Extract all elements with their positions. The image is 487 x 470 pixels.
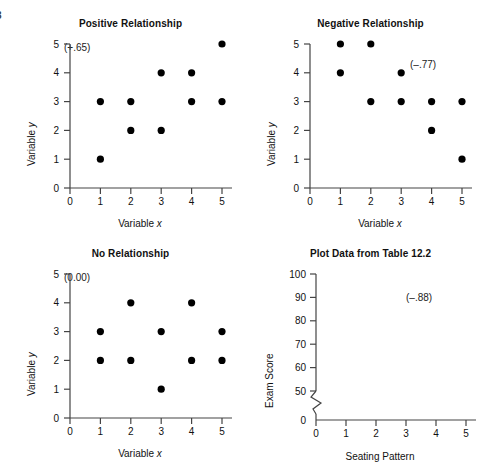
data-point [97, 357, 104, 364]
svg-text:0: 0 [313, 428, 319, 439]
svg-text:4: 4 [433, 428, 439, 439]
data-point [158, 127, 165, 134]
svg-text:0: 0 [307, 196, 313, 206]
plot-area-positive: 0 1 2 3 4 5 0 1 2 3 4 5 [40, 36, 240, 206]
svg-text:4: 4 [53, 67, 59, 78]
data-point [97, 328, 104, 335]
panel-no-relationship: No Relationship Variable y (0.00) 0 1 2 … [18, 248, 243, 463]
y-axis-label-positive: Variable y [26, 122, 37, 166]
panel-title-positive: Positive Relationship [18, 18, 243, 29]
x-axis-ticks [310, 188, 462, 194]
x-axis-ticklabels: 0 1 2 3 4 5 [313, 428, 469, 439]
data-point [398, 98, 405, 105]
svg-text:1: 1 [53, 154, 59, 165]
y-axis-ticks [64, 274, 70, 418]
svg-text:0: 0 [300, 415, 306, 426]
data-point [97, 156, 104, 163]
panel-negative-relationship: Negative Relationship Variable y (–.77) … [258, 18, 483, 233]
svg-text:1: 1 [98, 196, 104, 206]
scatter-svg-table: 100 90 80 70 60 50 0 0 1 2 3 [280, 266, 480, 441]
svg-text:2: 2 [128, 196, 134, 206]
svg-text:1: 1 [53, 384, 59, 395]
x-axis-ticks [316, 420, 466, 426]
svg-text:4: 4 [189, 196, 195, 206]
y-axis-ticklabels: 0 1 2 3 4 5 [53, 39, 59, 194]
x-axis-label-negative: Variable x [280, 218, 480, 229]
svg-text:0: 0 [67, 196, 73, 206]
svg-text:70: 70 [295, 339, 307, 350]
svg-text:2: 2 [293, 125, 299, 136]
data-point [127, 299, 134, 306]
scatter-svg-negative: 0 1 2 3 4 5 0 1 2 3 4 5 [280, 36, 480, 206]
svg-text:5: 5 [219, 426, 225, 436]
svg-text:2: 2 [373, 428, 379, 439]
svg-text:1: 1 [343, 428, 349, 439]
axis-break-symbol [311, 391, 321, 414]
data-points [337, 40, 466, 162]
svg-text:2: 2 [128, 426, 134, 436]
plot-area-none: 0 1 2 3 4 5 0 1 2 3 4 5 [40, 266, 240, 436]
svg-text:90: 90 [295, 292, 307, 303]
svg-text:5: 5 [53, 39, 59, 50]
data-point [337, 40, 344, 47]
plot-area-table: 100 90 80 70 60 50 0 0 1 2 3 [280, 266, 480, 441]
data-points [97, 299, 226, 393]
svg-text:5: 5 [53, 269, 59, 280]
panel-plot-data-table: Plot Data from Table 12.2 Exam Score (–.… [258, 248, 483, 463]
data-point [458, 156, 465, 163]
x-axis-ticklabels: 0 1 2 3 4 5 [67, 426, 225, 436]
y-axis-ticklabels: 100 90 80 70 60 50 0 [289, 269, 306, 426]
y-axis-ticks [64, 44, 70, 188]
svg-text:3: 3 [53, 96, 59, 107]
data-point [97, 98, 104, 105]
data-points [97, 40, 226, 162]
figure-edge-label: 3 [0, 10, 1, 21]
data-point [367, 40, 374, 47]
svg-text:4: 4 [293, 67, 299, 78]
data-point [218, 328, 225, 335]
panel-title-negative: Negative Relationship [258, 18, 483, 29]
data-point [218, 98, 225, 105]
data-point [218, 40, 225, 47]
svg-text:3: 3 [158, 196, 164, 206]
svg-text:2: 2 [368, 196, 374, 206]
data-point [188, 299, 195, 306]
x-axis-ticks [70, 188, 222, 194]
data-point [428, 127, 435, 134]
svg-text:80: 80 [295, 315, 307, 326]
svg-text:0: 0 [67, 426, 73, 436]
x-axis-ticklabels: 0 1 2 3 4 5 [67, 196, 225, 206]
svg-text:3: 3 [53, 326, 59, 337]
data-point [127, 357, 134, 364]
data-point [188, 69, 195, 76]
y-axis-label-none: Variable y [26, 352, 37, 396]
svg-text:3: 3 [293, 96, 299, 107]
svg-text:1: 1 [338, 196, 344, 206]
y-axis-ticklabels: 0 1 2 3 4 5 [293, 39, 299, 194]
x-axis-label-table: Seating Pattern [280, 451, 480, 462]
data-point [428, 98, 435, 105]
data-point [188, 98, 195, 105]
panel-title-table: Plot Data from Table 12.2 [258, 248, 483, 259]
y-axis-label-negative: Variable y [266, 122, 277, 166]
svg-text:4: 4 [53, 297, 59, 308]
data-point [367, 98, 374, 105]
data-point [188, 357, 195, 364]
plot-area-negative: 0 1 2 3 4 5 0 1 2 3 4 5 [280, 36, 480, 206]
svg-text:3: 3 [398, 196, 404, 206]
svg-text:5: 5 [219, 196, 225, 206]
svg-text:0: 0 [53, 413, 59, 424]
scatter-svg-none: 0 1 2 3 4 5 0 1 2 3 4 5 [40, 266, 240, 436]
svg-text:0: 0 [293, 183, 299, 194]
svg-text:1: 1 [98, 426, 104, 436]
data-point [398, 69, 405, 76]
data-point [218, 357, 225, 364]
data-point [158, 69, 165, 76]
data-point [158, 386, 165, 393]
svg-text:50: 50 [295, 386, 307, 397]
svg-text:3: 3 [403, 428, 409, 439]
panel-positive-relationship: Positive Relationship Variable y (+.65) … [18, 18, 243, 233]
svg-text:4: 4 [429, 196, 435, 206]
svg-text:3: 3 [158, 426, 164, 436]
data-point [127, 127, 134, 134]
